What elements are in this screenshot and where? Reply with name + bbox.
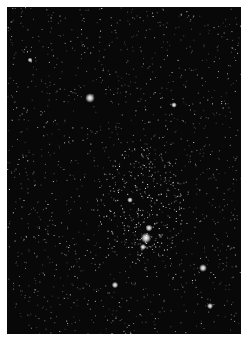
- star-field-photo: Dense starry night sky photograph with a…: [7, 7, 241, 334]
- star-field-canvas: [7, 7, 241, 334]
